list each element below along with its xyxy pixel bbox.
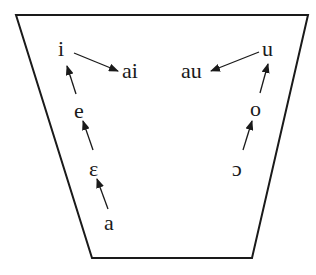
vowel-epsilon: ε [89,158,98,180]
vowel-u: u [262,38,273,60]
arrow-a-to-epsilon [97,179,108,209]
vowel-ai: ai [122,60,138,82]
arrow-epsilon-to-e [83,121,93,150]
vowel-au: au [181,60,202,82]
vowel-open-o: ɔ [232,158,242,180]
vowel-o: o [250,98,261,120]
arrow-u-to-au [211,52,259,71]
vowel-chart: i ai au u e o ε ɔ a [0,0,316,275]
vowel-a: a [104,212,114,234]
arrow-o-to-u [260,64,268,93]
arrow-i-to-ai [74,53,118,71]
transition-arrows [67,52,268,209]
vowel-e: e [74,100,84,122]
arrow-e-to-i [67,66,76,94]
arrow-open-o-to-o [243,121,252,150]
vowel-i: i [58,38,64,60]
